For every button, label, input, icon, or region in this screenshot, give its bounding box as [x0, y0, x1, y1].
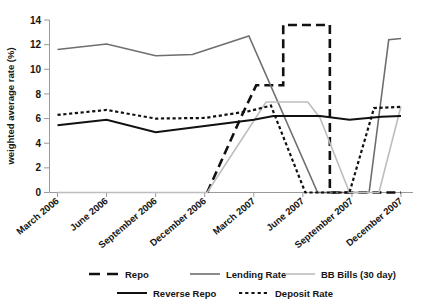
line-chart: 02468101214 March 2006June 2006September…: [0, 0, 421, 305]
legend-label: Repo: [125, 269, 149, 280]
y-tick-label: 0: [35, 187, 41, 198]
y-tick-label: 10: [30, 64, 42, 75]
legend-label: BB Bills (30 day): [321, 269, 396, 280]
y-tick-label: 2: [35, 162, 41, 173]
chart-container: 02468101214 March 2006June 2006September…: [0, 0, 421, 305]
y-axis-title: weighted average rate (%): [5, 47, 16, 165]
chart-background: [0, 0, 421, 305]
y-tick-label: 12: [30, 39, 42, 50]
legend-label: Deposit Rate: [275, 288, 333, 299]
y-tick-label: 8: [35, 89, 41, 100]
y-tick-label: 14: [30, 15, 42, 26]
legend-label: Reverse Repo: [153, 288, 217, 299]
y-tick-label: 6: [35, 113, 41, 124]
legend-label: Lending Rate: [226, 269, 286, 280]
y-tick-label: 4: [35, 138, 41, 149]
